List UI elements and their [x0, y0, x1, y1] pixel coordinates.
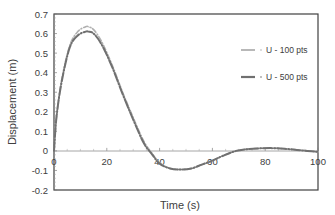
- y-tick-label: 0.5: [35, 48, 48, 59]
- x-tick-label: 100: [310, 156, 326, 167]
- legend-label-500pts: U - 500 pts: [266, 72, 308, 82]
- y-axis-title: Displacement (m): [6, 59, 18, 145]
- x-tick-label: 0: [51, 156, 56, 167]
- y-tick-label: 0.4: [35, 67, 48, 78]
- y-tick-label: 0.2: [35, 106, 48, 117]
- legend-label-100pts: U - 100 pts: [266, 45, 308, 55]
- y-tick-label: -0.2: [32, 185, 48, 196]
- y-tick-label: 0.3: [35, 87, 48, 98]
- plot-area: [54, 14, 318, 190]
- y-axis: -0.2-0.100.10.20.30.40.50.60.7: [32, 9, 57, 196]
- y-tick-label: 0.6: [35, 28, 48, 39]
- y-tick-label: -0.1: [32, 165, 48, 176]
- x-axis-title: Time (s): [160, 199, 200, 211]
- legend-dot-icon: [260, 76, 262, 78]
- displacement-chart: -0.2-0.100.10.20.30.40.50.60.7 020406080…: [0, 0, 335, 215]
- legend-dot-icon: [260, 49, 262, 51]
- plot-border: [54, 14, 318, 190]
- y-tick-label: 0.7: [35, 9, 48, 20]
- x-tick-label: 20: [102, 156, 113, 167]
- y-tick-label: 0.1: [35, 126, 48, 137]
- x-tick-label: 80: [260, 156, 271, 167]
- y-tick-label: 0: [43, 145, 48, 156]
